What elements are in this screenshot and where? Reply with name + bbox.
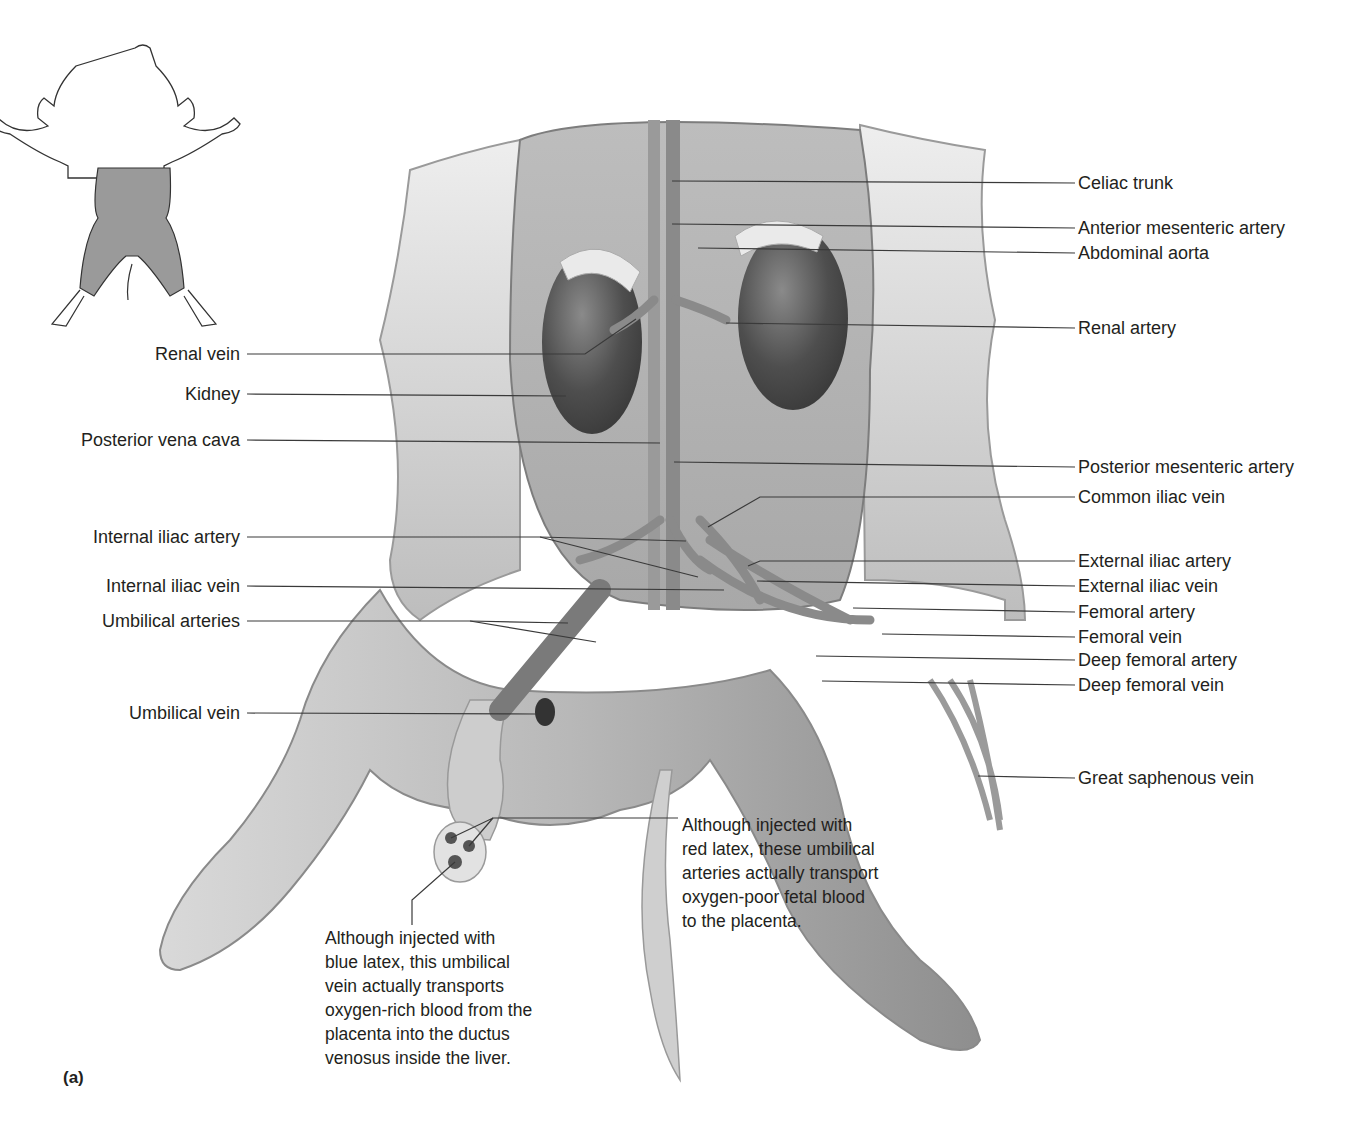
right-kidney xyxy=(738,226,848,410)
label-great-saphenous-vein: Great saphenous vein xyxy=(1078,768,1254,788)
label-deep-femoral-vein: Deep femoral vein xyxy=(1078,675,1224,695)
label-common-iliac-vein: Common iliac vein xyxy=(1078,487,1225,507)
label-posterior-vena-cava: Posterior vena cava xyxy=(81,430,240,450)
label-kidney: Kidney xyxy=(185,384,240,404)
label-celiac-trunk: Celiac trunk xyxy=(1078,173,1173,193)
label-posterior-mesenteric-artery: Posterior mesenteric artery xyxy=(1078,457,1294,477)
label-renal-artery: Renal artery xyxy=(1078,318,1176,338)
blue-latex-note: Although injected with blue latex, this … xyxy=(325,926,532,1070)
panel-label: (a) xyxy=(63,1068,84,1088)
label-internal-iliac-vein: Internal iliac vein xyxy=(106,576,240,596)
label-femoral-vein: Femoral vein xyxy=(1078,627,1182,647)
orientation-inset xyxy=(0,45,240,326)
label-anterior-mesenteric-artery: Anterior mesenteric artery xyxy=(1078,218,1285,238)
label-abdominal-aorta: Abdominal aorta xyxy=(1078,243,1209,263)
fetal-pig-illustration xyxy=(0,0,1356,1144)
label-umbilical-vein: Umbilical vein xyxy=(129,703,240,723)
label-renal-vein: Renal vein xyxy=(155,344,240,364)
label-umbilical-arteries: Umbilical arteries xyxy=(102,611,240,631)
label-deep-femoral-artery: Deep femoral artery xyxy=(1078,650,1237,670)
label-external-iliac-artery: External iliac artery xyxy=(1078,551,1231,571)
label-external-iliac-vein: External iliac vein xyxy=(1078,576,1218,596)
label-femoral-artery: Femoral artery xyxy=(1078,602,1195,622)
label-internal-iliac-artery: Internal iliac artery xyxy=(93,527,240,547)
red-latex-note: Although injected with red latex, these … xyxy=(682,813,878,933)
